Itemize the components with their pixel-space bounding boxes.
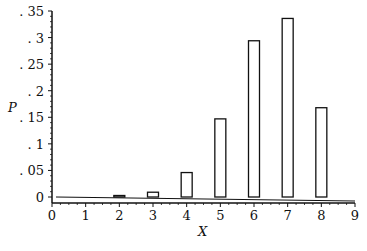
x-tick-label: 8: [317, 208, 325, 223]
x-tick-label: 0: [48, 208, 56, 223]
axes: 0. 05. 1. 15. 2. 25. 3. 350123456789: [19, 4, 359, 223]
y-tick-label: . 2: [27, 84, 44, 99]
y-tick-label: . 35: [19, 4, 44, 19]
x-tick-label: 4: [183, 208, 191, 223]
y-axis-label: P: [7, 100, 17, 115]
x-tick-label: 9: [351, 208, 359, 223]
x-axis-label: X: [197, 224, 208, 239]
bar: [215, 119, 226, 197]
y-tick-label: . 3: [27, 31, 44, 46]
x-tick-label: 1: [82, 208, 90, 223]
y-tick-label: . 25: [19, 57, 44, 72]
bar: [316, 108, 327, 197]
x-tick-label: 7: [284, 208, 292, 223]
bar-chart: 0. 05. 1. 15. 2. 25. 3. 350123456789 P X: [0, 0, 367, 251]
bars: [114, 18, 327, 197]
bar: [249, 41, 260, 197]
x-tick-label: 6: [250, 208, 258, 223]
bar: [114, 196, 125, 198]
y-tick-label: . 1: [27, 137, 44, 152]
x-tick-label: 2: [115, 208, 123, 223]
bar: [148, 192, 159, 197]
x-tick-label: 5: [216, 208, 224, 223]
bar: [181, 173, 192, 197]
y-tick-label: . 05: [19, 163, 44, 178]
y-tick-label: 0: [36, 190, 44, 205]
y-tick-label: . 15: [19, 110, 44, 125]
bar: [282, 18, 293, 197]
x-tick-label: 3: [149, 208, 157, 223]
